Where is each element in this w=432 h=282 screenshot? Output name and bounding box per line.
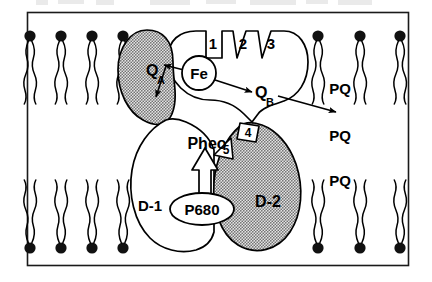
helix-tag-1: 1 <box>209 35 217 52</box>
d2-label: D-2 <box>255 193 281 210</box>
cofactor-p680: P680 <box>170 193 234 225</box>
helix-tag-3: 3 <box>267 35 275 52</box>
svg-text:A: A <box>157 74 165 86</box>
pq-label-2: PQ <box>329 127 351 144</box>
pq-label-1: PQ <box>329 80 351 97</box>
svg-text:P680: P680 <box>184 201 219 218</box>
diagram-canvas: 1 2 3 4 5 Q A <box>0 0 432 282</box>
photosystem-ii-figure: 1 2 3 4 5 Q A <box>0 0 432 282</box>
svg-text:4: 4 <box>245 126 252 140</box>
svg-text:B: B <box>266 96 274 108</box>
site-tag-4: 4 <box>237 123 259 142</box>
helix-tag-2: 2 <box>239 35 247 52</box>
cropped-caption-remnant <box>36 0 372 5</box>
pq-label-3: PQ <box>329 172 351 189</box>
cofactor-fe: Fe <box>182 56 216 90</box>
d1-label: D-1 <box>138 197 162 214</box>
svg-text:Fe: Fe <box>190 65 208 82</box>
cofactor-pheo: Pheo <box>187 135 226 152</box>
